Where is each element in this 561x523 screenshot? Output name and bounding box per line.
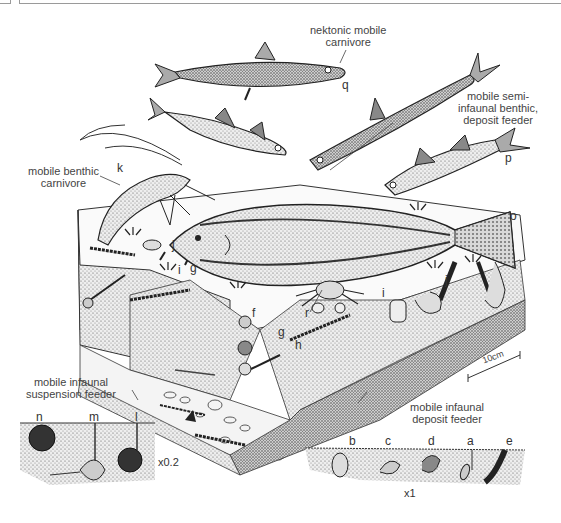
label-g-lower: g — [278, 326, 285, 339]
caption-infaunal-deposit: mobile infaunal deposit feeder — [410, 401, 484, 425]
label-d: d — [428, 435, 435, 448]
fish-q — [155, 42, 345, 100]
inset-scale-x1: x1 — [404, 487, 416, 500]
label-l: l — [135, 411, 138, 424]
caption-line: mobile semi- — [458, 90, 538, 102]
inset-deposit-feeders — [305, 448, 525, 485]
caption-line: carnivore — [310, 36, 386, 48]
caption-line: mobile infaunal — [26, 376, 116, 388]
caption-line: deposit feeder — [458, 114, 538, 126]
label-p: p — [505, 152, 512, 165]
label-g-upper: g — [190, 262, 197, 275]
caption-semi-infaunal: mobile semi- infaunal benthic, deposit f… — [458, 90, 538, 126]
label-a: a — [467, 435, 474, 448]
caption-nektonic: nektonic mobile carnivore — [310, 24, 386, 48]
label-m: m — [89, 411, 99, 424]
label-i-right: i — [382, 287, 385, 300]
label-o: o — [510, 210, 517, 223]
caption-infaunal-suspension: mobile infaunal suspension feeder — [26, 376, 116, 400]
fish-cod — [148, 98, 286, 155]
label-j-right: j — [445, 274, 448, 287]
caption-line: suspension feeder — [26, 388, 116, 400]
label-b: b — [349, 435, 356, 448]
label-k: k — [117, 162, 123, 175]
label-c: c — [385, 435, 391, 448]
inset-scale-x0-2: x0.2 — [158, 456, 179, 469]
inset-suspension-feeders — [20, 423, 155, 485]
illustration — [0, 0, 561, 523]
label-n: n — [36, 411, 43, 424]
caption-line: infaunal benthic, — [458, 102, 538, 114]
label-r: r — [305, 307, 309, 320]
label-h: h — [295, 339, 302, 352]
label-e: e — [506, 435, 513, 448]
label-f: f — [252, 307, 255, 320]
caption-benthic-carnivore: mobile benthic carnivore — [28, 165, 99, 189]
caption-line: nektonic mobile — [310, 24, 386, 36]
caption-line: mobile benthic — [28, 165, 99, 177]
label-i-left: i — [178, 264, 181, 277]
caption-line: deposit feeder — [410, 413, 484, 425]
caption-line: carnivore — [28, 177, 99, 189]
caption-line: mobile infaunal — [410, 401, 484, 413]
label-q: q — [342, 79, 349, 92]
label-j-left: j — [172, 239, 175, 252]
